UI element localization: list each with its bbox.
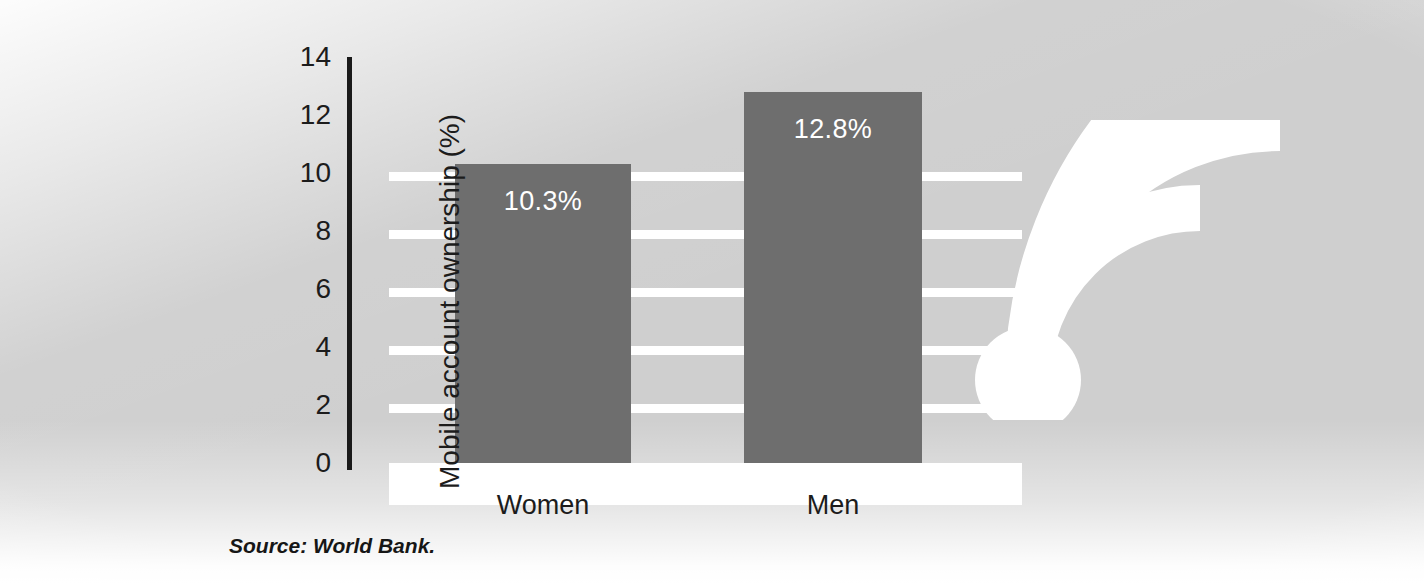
- y-axis-title: Mobile account ownership (%): [434, 129, 466, 489]
- y-tick-labels: 14 12 10 8 6 4 2 0: [283, 50, 331, 470]
- bar-women[interactable]: 10.3%: [455, 164, 631, 463]
- y-tick-label-4: 4: [291, 331, 331, 363]
- plot-area: 10.3% 12.8% Women Men Mobile account own…: [347, 50, 1022, 470]
- source-note: Source: World Bank.: [229, 534, 435, 558]
- y-tick-label-10: 10: [291, 157, 331, 189]
- y-tick-label-8: 8: [291, 215, 331, 247]
- y-tick-label-12: 12: [291, 99, 331, 131]
- y-axis-line: [347, 57, 352, 470]
- x-tick-label-men: Men: [807, 490, 860, 521]
- plot-floor-band: [389, 463, 1022, 505]
- x-tick-label-women: Women: [497, 490, 590, 521]
- bar-value-label: 10.3%: [504, 186, 583, 217]
- y-tick-label-14: 14: [291, 41, 331, 73]
- chart-canvas: 10.3% 12.8% Women Men Mobile account own…: [0, 0, 1424, 584]
- bar-value-label: 12.8%: [794, 114, 873, 145]
- y-tick-label-2: 2: [291, 389, 331, 421]
- y-tick-label-6: 6: [291, 273, 331, 305]
- bar-men[interactable]: 12.8%: [744, 92, 922, 463]
- y-tick-label-0: 0: [291, 447, 331, 479]
